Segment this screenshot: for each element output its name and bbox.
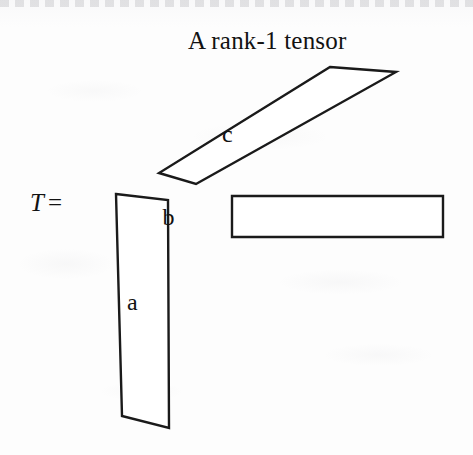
factor-label-b-wrap: b <box>0 205 473 229</box>
factor-shape-a <box>116 194 169 428</box>
factor-shape-c <box>159 67 396 184</box>
factor-label-b: b <box>163 205 175 229</box>
factor-label-c: c <box>222 122 233 146</box>
figure-canvas: A rank-1 tensor T= c a b <box>0 0 473 455</box>
figure-title: A rank-1 tensor <box>188 28 347 53</box>
factor-label-a: a <box>127 290 138 314</box>
